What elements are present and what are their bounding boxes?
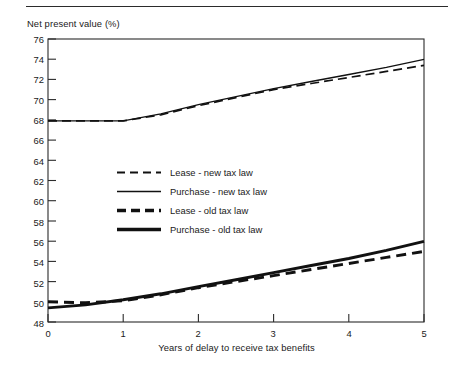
legend-label-lease-new-tax-law: Lease - new tax law: [170, 168, 253, 177]
series-line-purchase-old-tax-law: [48, 241, 424, 308]
plot-area: [0, 0, 454, 369]
legend-label-purchase-new-tax-law: Purchase - new tax law: [170, 187, 267, 196]
series-line-lease-old-tax-law: [48, 251, 424, 302]
series-line-lease-new-tax-law: [48, 65, 424, 121]
legend-label-lease-old-tax-law: Lease - old tax law: [170, 206, 248, 215]
legend-label-purchase-old-tax-law: Purchase - old tax law: [170, 225, 262, 234]
series-line-purchase-new-tax-law: [48, 59, 424, 121]
x-axis-ticks: [48, 314, 424, 322]
y-axis-ticks: [48, 39, 56, 322]
x-axis-title: Years of delay to receive tax benefits: [48, 342, 425, 353]
chart-figure: Net present value (%) 76 74 72 70 68 66 …: [0, 0, 454, 369]
